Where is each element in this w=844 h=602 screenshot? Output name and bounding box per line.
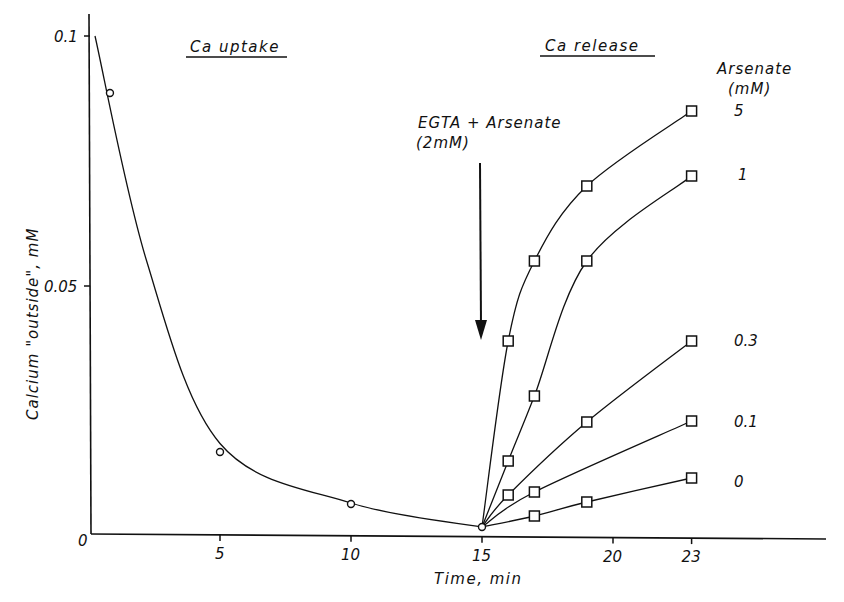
x-tick-label: 23: [682, 548, 701, 566]
series-curve-arsenate-1: [482, 176, 692, 527]
svg-text:Ca release: Ca release: [545, 37, 639, 55]
phase-release-heading: Ca release: [540, 37, 655, 56]
square-marker-icon: [687, 106, 697, 116]
y-axis: [89, 14, 91, 534]
arrow-down-icon: [480, 163, 481, 325]
ticks: 05101520230.050.1: [44, 28, 701, 566]
series-label: 0.1: [734, 413, 758, 431]
y-tick-label: 0.1: [54, 28, 78, 46]
series-label: 1: [738, 166, 748, 184]
x-tick-label: 20: [603, 548, 622, 566]
circle-marker-icon: [348, 501, 355, 508]
arrow-annotation: EGTA + Arsenate (2mM): [416, 114, 562, 340]
series-curve-uptake: [95, 36, 482, 527]
square-marker-icon: [529, 511, 539, 521]
circle-marker-icon: [479, 524, 486, 531]
y-axis-label: Calcium "outside", mM: [24, 228, 42, 420]
square-marker-icon: [529, 256, 539, 266]
circle-marker-icon: [217, 449, 224, 456]
svg-text:(mM): (mM): [728, 80, 771, 98]
square-marker-icon: [529, 391, 539, 401]
chart: 05101520230.050.1 Time, min Calcium "out…: [0, 0, 844, 602]
x-tick-label: 0: [78, 532, 88, 550]
series-label: 0: [734, 473, 744, 491]
square-marker-icon: [503, 336, 513, 346]
phase-uptake-heading: Ca uptake: [186, 38, 287, 57]
svg-text:(2mM): (2mM): [416, 134, 470, 152]
series-curve-arsenate-0.1: [482, 421, 692, 527]
square-marker-icon: [582, 256, 592, 266]
square-marker-icon: [503, 490, 513, 500]
axes: [89, 14, 826, 539]
square-marker-icon: [582, 417, 592, 427]
x-tick-label: 5: [215, 545, 225, 563]
x-tick-label: 10: [341, 546, 360, 564]
series-labels: 510.30.10: [734, 102, 758, 491]
square-marker-icon: [582, 497, 592, 507]
series-label: 5: [734, 102, 744, 120]
y-tick-label: 0.05: [44, 278, 77, 296]
legend-title: Arsenate (mM): [716, 60, 792, 98]
circle-marker-icon: [106, 90, 113, 97]
square-marker-icon: [529, 487, 539, 497]
svg-text:Arsenate: Arsenate: [716, 60, 792, 78]
square-marker-icon: [687, 473, 697, 483]
x-tick-label: 15: [472, 547, 491, 565]
square-marker-icon: [687, 336, 697, 346]
square-marker-icon: [582, 181, 592, 191]
square-marker-icon: [687, 416, 697, 426]
square-marker-icon: [687, 171, 697, 181]
svg-text:EGTA + Arsenate: EGTA + Arsenate: [418, 114, 562, 132]
square-marker-icon: [503, 456, 513, 466]
series-label: 0.3: [734, 332, 758, 350]
x-axis: [91, 534, 826, 539]
svg-text:Ca uptake: Ca uptake: [190, 38, 280, 56]
curves: [95, 36, 692, 527]
x-axis-label: Time, min: [434, 570, 523, 588]
markers: [106, 90, 696, 531]
